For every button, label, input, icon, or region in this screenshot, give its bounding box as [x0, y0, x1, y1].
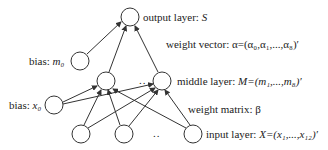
input-node-1 — [72, 125, 90, 143]
input-node-2 — [115, 125, 133, 143]
bias-x-text: bias: — [9, 99, 33, 111]
bias-m0-label: bias: m₀ — [29, 55, 64, 67]
middle-symbol: M=(m₁,...,m₈)′ — [238, 75, 302, 87]
middle-ellipsis: .. — [139, 74, 147, 86]
input-layer-text: input layer: — [206, 128, 259, 140]
edge-input3-middle1 — [113, 89, 186, 128]
edge-middle1-output — [109, 26, 126, 72]
input-node-3 — [184, 125, 202, 143]
edge-bias-x0-middle1 — [63, 86, 97, 102]
bias-m-text: bias: — [29, 55, 53, 67]
edge-input2-middle1 — [108, 90, 120, 125]
output-node — [121, 8, 139, 26]
bias-x-symbol: x₀ — [33, 99, 42, 111]
middle-layer-label: middle layer: M=(m₁,...,m₈)′ — [177, 75, 302, 87]
edge-middle2-output — [135, 26, 158, 72]
edge-input3-middle2 — [165, 90, 190, 125]
middle-node-1 — [97, 72, 115, 90]
bias-m-symbol: m₀ — [53, 55, 65, 67]
input-ellipsis: .. — [153, 127, 161, 139]
input-layer-label: input layer: X=(x₁,...,x₁₂)′ — [206, 128, 318, 140]
middle-layer-text: middle layer: — [177, 75, 238, 87]
weight-matrix-label: weight matrix: β — [188, 103, 261, 115]
edge-input1-middle1 — [84, 90, 101, 125]
bias-m0-node — [71, 52, 89, 70]
output-symbol: S — [202, 11, 208, 23]
middle-node-2 — [153, 72, 171, 90]
output-layer-text: output layer: — [143, 11, 202, 23]
bias-x0-label: bias: x₀ — [9, 99, 41, 111]
weight-vector-label: weight vector: α=(α₀,α₁,...,α₈)′ — [166, 38, 299, 50]
edge-bias-m0-output — [87, 22, 121, 54]
input-symbol: X=(x₁,...,x₁₂)′ — [259, 128, 318, 140]
output-layer-label: output layer: S — [143, 11, 207, 23]
bias-x0-node — [45, 96, 63, 114]
